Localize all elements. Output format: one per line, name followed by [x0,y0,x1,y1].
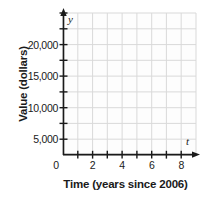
y-axis-title: Value (dollars) [17,14,29,154]
chart-figure: 20,000 15,000 10,000 5,000 0 2 4 6 8 y t… [0,0,205,200]
x-tick-label-8: 8 [169,159,193,171]
x-tick-label-6: 6 [140,159,164,171]
x-tick-label-0: 0 [44,159,68,171]
y-axis-variable-label: y [68,13,73,25]
x-axis-variable-label: t [186,135,189,147]
x-tick-label-group: 0 2 4 6 8 [0,0,205,200]
x-tick-label-2: 2 [81,159,105,171]
x-axis-title: Time (years since 2006) [46,178,205,190]
x-tick-label-4: 4 [110,159,134,171]
